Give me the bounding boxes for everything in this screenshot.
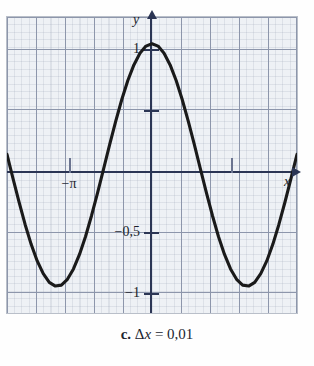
caption-index: c. <box>121 326 131 342</box>
x-axis-arrowhead <box>292 167 301 177</box>
x-tick-label-neg-pi: −π <box>55 176 83 192</box>
y-tick-label-neg-half: −0,5 <box>100 224 140 240</box>
x-axis-label: x <box>284 174 290 190</box>
figure-panel: x y 1 −0,5 −1 −π c. Δx = 0,01 <box>0 0 314 366</box>
y-axis-label: y <box>133 12 139 28</box>
y-axis-arrowhead <box>147 10 157 19</box>
caption-equals: = <box>155 326 163 342</box>
figure-caption: c. Δx = 0,01 <box>0 326 314 343</box>
caption-variable: x <box>144 326 151 342</box>
cosine-curve <box>7 17 297 313</box>
cosine-path <box>7 44 297 286</box>
y-tick-label-neg-one: −1 <box>110 285 140 301</box>
plot-area <box>7 17 297 313</box>
y-tick-label-1: 1 <box>118 41 140 57</box>
caption-value: 0,01 <box>167 326 193 342</box>
